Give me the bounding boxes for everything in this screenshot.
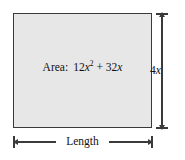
width-dimension-arrow-right <box>108 141 152 143</box>
area-label-prefix: Area: <box>43 61 69 73</box>
term2-variable: x <box>117 61 122 73</box>
width-dimension-label: Length <box>56 134 109 149</box>
width-arrow-cap-right <box>151 136 153 148</box>
term1-coefficient: 12 <box>73 61 85 73</box>
height-variable: x <box>156 64 161 76</box>
area-expression: 12x2 + 32x <box>73 61 122 73</box>
expression-operator: + <box>96 61 103 73</box>
height-arrow-cap-bottom <box>156 127 168 129</box>
height-dimension-arrow <box>161 13 163 129</box>
geometry-figure: Area:12x2 + 32x 4x Length <box>0 0 185 160</box>
term2-coefficient: 32 <box>106 61 118 73</box>
height-dimension-label: 4x <box>150 63 161 77</box>
term1-exponent: 2 <box>90 59 94 68</box>
width-dimension-arrow-left <box>14 141 56 143</box>
area-label: Area:12x2 + 32x <box>13 60 152 74</box>
